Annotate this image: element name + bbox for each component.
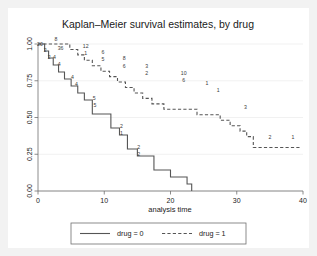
at-risk-label: 8 — [123, 55, 126, 61]
at-risk-label: 4 — [58, 61, 61, 67]
at-risk-label: 2 — [44, 47, 47, 53]
at-risk-label: 3 — [145, 63, 148, 69]
y-tick-label-4: 1.00 — [26, 37, 33, 51]
at-risk-label: 1 — [217, 87, 220, 93]
at-risk-label: 1 — [84, 50, 87, 56]
at-risk-label: 2 — [145, 70, 148, 76]
at-risk-label: 5 — [101, 56, 104, 62]
at-risk-label: 6 — [123, 63, 126, 69]
legend-label-drug-1: drug = 1 — [199, 229, 226, 238]
y-tick-label-3: 0.75 — [26, 74, 33, 88]
x-tick-group: 010203040 — [36, 191, 307, 204]
at-risk-label: 4 — [71, 74, 74, 80]
at-risk-label: 2 — [268, 134, 271, 140]
at-risk-label: 2 — [120, 123, 123, 129]
at-risk-labels-group: 2022444455212283612165863210611321 — [37, 36, 295, 157]
at-risk-label: 12 — [83, 43, 89, 49]
legend: drug = 0 drug = 1 — [71, 223, 246, 244]
x-tick-label-3: 30 — [233, 197, 241, 204]
at-risk-label: 2 — [137, 144, 140, 150]
at-risk-label: 1 — [292, 134, 295, 140]
at-risk-label: 20 — [37, 41, 43, 47]
at-risk-label: 6 — [101, 49, 104, 55]
x-tick-label-2: 20 — [167, 197, 175, 204]
y-tick-label-2: 0.50 — [26, 111, 33, 125]
x-tick-label-4: 40 — [299, 197, 307, 204]
at-risk-label: 6 — [182, 77, 185, 83]
y-tick-group: 0.000.250.500.751.00 — [26, 37, 38, 198]
at-risk-label: 1 — [120, 130, 123, 136]
chart-title: Kaplan–Meier survival estimates, by drug — [62, 18, 254, 30]
x-tick-label-1: 10 — [100, 197, 108, 204]
at-risk-label: 5 — [94, 102, 97, 108]
figure-container: Kaplan–Meier survival estimates, by drug… — [0, 0, 317, 256]
x-tick-label-0: 0 — [36, 197, 40, 204]
kaplan-meier-chart: Kaplan–Meier survival estimates, by drug… — [0, 0, 317, 256]
at-risk-label: 36 — [58, 45, 64, 51]
y-tick-label-1: 0.25 — [26, 147, 33, 161]
at-risk-label: 8 — [54, 36, 57, 42]
chart-title-group: Kaplan–Meier survival estimates, by drug — [62, 18, 254, 30]
at-risk-label: 4 — [53, 54, 56, 60]
at-risk-label: 2 — [137, 151, 140, 157]
gridlines-group — [38, 44, 303, 191]
y-tick-label-0: 0.00 — [26, 184, 33, 198]
series-line-drug-1 — [38, 44, 300, 147]
at-risk-label: 10 — [181, 70, 187, 76]
legend-label-drug-0: drug = 0 — [117, 229, 144, 238]
x-axis-label: analysis time — [148, 205, 191, 214]
at-risk-label: 5 — [93, 95, 96, 101]
at-risk-label: 1 — [205, 80, 208, 86]
at-risk-label: 2 — [48, 54, 51, 60]
at-risk-label: 4 — [75, 81, 78, 87]
at-risk-label: 3 — [244, 104, 247, 110]
